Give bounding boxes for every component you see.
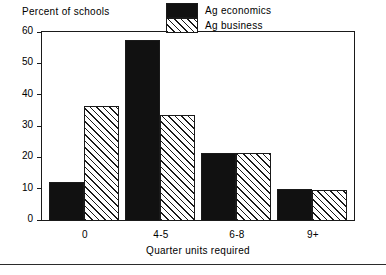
bar-ag-economics bbox=[49, 182, 84, 220]
bar-groups bbox=[42, 32, 354, 220]
y-tick-label: 10 bbox=[22, 182, 33, 193]
y-tick-label: 20 bbox=[22, 150, 33, 161]
x-tick-label: 9+ bbox=[307, 229, 319, 240]
x-tick-label: 4-5 bbox=[153, 229, 168, 240]
legend-label-ag-economics: Ag economics bbox=[205, 5, 271, 16]
chart-legend: Ag economics Ag business bbox=[166, 3, 271, 33]
legend-label-ag-business: Ag business bbox=[205, 20, 263, 31]
legend-item-ag-economics: Ag economics bbox=[166, 3, 271, 18]
y-tick-label: 50 bbox=[22, 56, 33, 67]
legend-swatch-solid-icon bbox=[166, 3, 198, 18]
plot-area: 0102030405060 04-56-89+ bbox=[41, 31, 355, 221]
bar-chart-figure: Percent of schools 0102030405060 04-56-8… bbox=[0, 0, 386, 275]
bar-ag-business bbox=[236, 153, 271, 220]
y-tick-label: 30 bbox=[22, 119, 33, 130]
figure-bottom-rule bbox=[0, 264, 386, 265]
y-axis-title: Percent of schools bbox=[22, 6, 110, 17]
bar-group bbox=[49, 32, 119, 220]
x-tick-label: 6-8 bbox=[229, 229, 244, 240]
bar-ag-economics bbox=[201, 153, 236, 220]
bar-ag-business bbox=[160, 115, 195, 220]
x-axis-title: Quarter units required bbox=[41, 245, 355, 256]
legend-swatch-hatch-icon bbox=[166, 18, 198, 33]
bar-ag-business bbox=[84, 106, 119, 220]
bar-group bbox=[125, 32, 195, 220]
y-tick-label: 0 bbox=[27, 213, 33, 224]
bar-ag-business bbox=[312, 190, 347, 220]
y-tick-label: 40 bbox=[22, 88, 33, 99]
bar-ag-economics bbox=[125, 40, 160, 220]
bar-group bbox=[277, 32, 347, 220]
bar-group bbox=[201, 32, 271, 220]
bar-ag-economics bbox=[277, 189, 312, 220]
legend-item-ag-business: Ag business bbox=[166, 18, 271, 33]
x-tick-label: 0 bbox=[82, 229, 88, 240]
y-tick-label: 60 bbox=[22, 25, 33, 36]
